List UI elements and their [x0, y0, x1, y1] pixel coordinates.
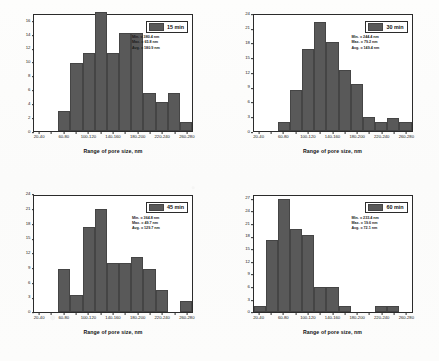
bar: [143, 269, 155, 311]
legend-title: 45 min: [167, 204, 184, 210]
legend-header: 30 min: [365, 21, 407, 33]
bar: [119, 263, 131, 311]
bar: [290, 229, 302, 311]
y-tick-label: 9: [248, 272, 253, 276]
bar: [375, 122, 387, 131]
bar-slot: [83, 15, 95, 131]
y-tick-label: 9: [28, 266, 33, 270]
bar: [180, 122, 192, 131]
legend: 30 min Min. = 244.4 nm Max. = 79.2 nm Av…: [348, 21, 408, 51]
legend: 45 min Min. = 364.8 nm Max. = 49.7 nm Av…: [128, 202, 188, 232]
x-tick-label: 20-40: [34, 316, 45, 320]
y-tick-label: 9: [248, 86, 253, 90]
bar: [339, 70, 351, 131]
bar: [387, 306, 399, 312]
x-tick-mark: [369, 313, 370, 315]
bar: [58, 111, 70, 131]
y-tick-label: 24: [245, 209, 252, 213]
x-tick-mark: [76, 313, 77, 315]
bar: [351, 84, 363, 131]
bar: [266, 240, 278, 311]
plot-area: 0246810121416 20-4060-80100-120140-16018…: [33, 14, 193, 132]
legend-swatch-icon: [149, 23, 164, 31]
bar: [254, 306, 266, 312]
bar: [95, 12, 107, 131]
y-tick-label: 15: [245, 247, 252, 251]
stat-avg: Avg. = 180.9 nm: [132, 46, 188, 51]
legend-title: 15 min: [167, 24, 184, 30]
x-tick-mark: [344, 132, 345, 134]
x-tick-label: 140-160: [325, 135, 340, 139]
y-tick-label: 24: [26, 192, 33, 196]
bar-slot: [326, 15, 338, 131]
bar: [326, 42, 338, 131]
bar-slot: [34, 15, 46, 131]
bar-slot: [314, 196, 326, 312]
y-tick-label: 0: [248, 310, 253, 314]
legend-stats: Min. = 244.4 nm Max. = 79.2 nm Avg. = 14…: [348, 35, 408, 51]
bar: [156, 290, 168, 312]
x-tick-mark: [369, 132, 370, 134]
x-tick-mark: [51, 132, 52, 134]
bar-slot: [266, 15, 278, 131]
bar-slot: [70, 15, 82, 131]
bar-slot: [107, 15, 119, 131]
panel-45min: %, Pore size distribution 03691215182124…: [0, 181, 220, 361]
y-tick-label: 12: [245, 71, 252, 75]
x-tick-label: 220-240: [155, 135, 170, 139]
bar-slot: [266, 196, 278, 312]
bar: [387, 118, 399, 131]
y-tick-label: 8: [28, 74, 33, 78]
x-tick-label: 260-280: [399, 135, 414, 139]
x-tick-mark: [394, 313, 395, 315]
panel-30min: %, Pore size distribution 03691215182124…: [220, 0, 439, 181]
legend-header: 45 min: [146, 202, 188, 214]
histogram-panel-grid: %, Pore size distribution 0246810121416 …: [0, 0, 439, 361]
bar: [83, 227, 95, 311]
y-tick-label: 15: [245, 56, 252, 60]
bar-slot: [278, 15, 290, 131]
x-axis-label: Range of pore size, nm: [33, 329, 193, 335]
plot-area: 03691215182124 20-4060-80100-120140-1601…: [253, 14, 413, 132]
legend-stats: Min. = 233.4 nm Max. = 19.6 nm Avg. = 72…: [348, 216, 408, 232]
y-tick-label: 12: [26, 47, 33, 51]
stat-avg: Avg. = 149.4 nm: [352, 46, 408, 51]
x-tick-label: 20-40: [253, 135, 264, 139]
bar-slot: [46, 15, 58, 131]
x-tick-mark: [125, 313, 126, 315]
y-tick-label: 2: [28, 116, 33, 120]
x-tick-label: 20-40: [34, 135, 45, 139]
x-tick-label: 260-280: [399, 316, 414, 320]
legend-stats: Min. = 364.8 nm Max. = 49.7 nm Avg. = 12…: [128, 216, 188, 232]
bar-slot: [34, 196, 46, 312]
bar: [290, 90, 302, 131]
x-axis-label: Range of pore size, nm: [253, 329, 413, 335]
x-tick-label: 20-40: [253, 316, 264, 320]
legend-header: 15 min: [146, 21, 188, 33]
legend: 60 min Min. = 233.4 nm Max. = 19.6 nm Av…: [348, 202, 408, 232]
bar: [70, 295, 82, 312]
x-tick-mark: [295, 132, 296, 134]
legend-stats: Min. = 380.4 nm Max. = 65.8 nm Avg. = 18…: [128, 35, 188, 51]
bar: [399, 122, 411, 131]
y-tick-label: 14: [26, 33, 33, 37]
plot-area: 0369121518212427 20-4060-80100-120140-16…: [253, 195, 413, 313]
bar-slot: [46, 196, 58, 312]
y-tick-label: 21: [26, 207, 33, 211]
y-tick-label: 27: [245, 197, 252, 201]
x-tick-mark: [150, 313, 151, 315]
bar-slot: [254, 15, 266, 131]
bar-slot: [254, 196, 266, 312]
bar: [326, 287, 338, 312]
bar: [83, 53, 95, 131]
bar-slot: [314, 15, 326, 131]
legend-title: 60 min: [386, 204, 403, 210]
bar: [363, 117, 375, 131]
bar-slot: [326, 196, 338, 312]
y-tick-label: 10: [26, 60, 33, 64]
y-tick-label: 3: [248, 298, 253, 302]
bar-slot: [95, 196, 107, 312]
x-tick-mark: [394, 132, 395, 134]
bar-slot: [302, 196, 314, 312]
x-axis-label: Range of pore size, nm: [253, 148, 413, 154]
